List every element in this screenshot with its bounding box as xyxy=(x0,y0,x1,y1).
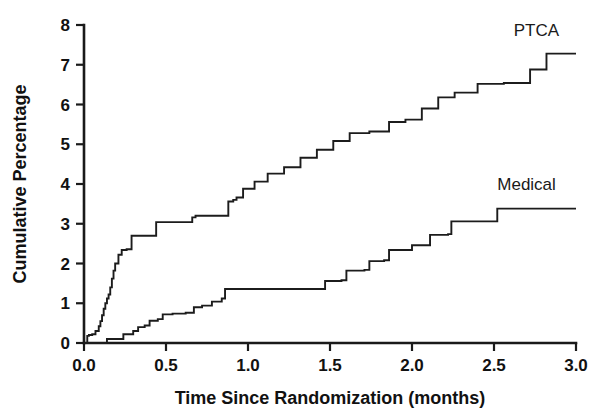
curve-medical xyxy=(84,209,576,343)
y-tick-label: 7 xyxy=(61,56,70,75)
chart-figure: 012345678 0.00.51.01.52.02.53.0 PTCAMedi… xyxy=(0,0,599,420)
y-tick-label: 0 xyxy=(61,334,70,353)
cumulative-incidence-chart: 012345678 0.00.51.01.52.02.53.0 PTCAMedi… xyxy=(0,0,599,420)
y-tick-label: 6 xyxy=(61,96,70,115)
y-tick-label: 5 xyxy=(61,135,70,154)
y-tick-label: 1 xyxy=(61,294,70,313)
x-tick-label: 1.5 xyxy=(318,356,342,375)
x-tick-label: 0.5 xyxy=(154,356,178,375)
x-axis-tick-labels: 0.00.51.01.52.02.53.0 xyxy=(72,356,588,375)
series-label-medical: Medical xyxy=(497,175,556,194)
x-axis-title: Time Since Randomization (months) xyxy=(175,388,486,408)
y-tick-label: 2 xyxy=(61,255,70,274)
curve-ptca xyxy=(84,54,576,343)
x-tick-label: 0.0 xyxy=(72,356,96,375)
series-label-ptca: PTCA xyxy=(514,21,560,40)
x-tick-label: 1.0 xyxy=(236,356,260,375)
x-tick-label: 2.0 xyxy=(400,356,424,375)
y-tick-label: 8 xyxy=(61,16,70,35)
x-tick-label: 3.0 xyxy=(564,356,588,375)
y-axis-title: Cumulative Percentage xyxy=(10,84,30,283)
y-tick-label: 3 xyxy=(61,215,70,234)
y-axis-tick-labels: 012345678 xyxy=(61,16,71,353)
y-tick-label: 4 xyxy=(61,175,71,194)
series-inline-labels: PTCAMedical xyxy=(497,21,559,194)
x-tick-label: 2.5 xyxy=(482,356,506,375)
series-curves xyxy=(84,54,576,343)
